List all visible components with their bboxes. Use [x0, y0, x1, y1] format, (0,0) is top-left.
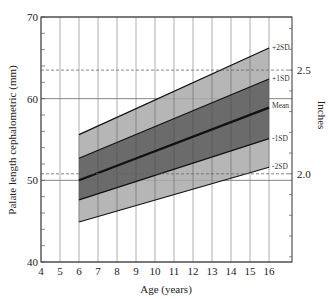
x-axis-title: Age (years): [140, 283, 192, 296]
band-label: -1SD: [272, 134, 288, 143]
x-tick-label: 13: [207, 265, 219, 277]
x-axis-ticks: 45678910111213141516: [38, 265, 275, 277]
y-axis-ticks: 40506070: [27, 11, 45, 268]
x-tick-label: 4: [38, 265, 44, 277]
growth-chart: 45678910111213141516 40506070 2.52.0 +2S…: [0, 0, 332, 299]
x-tick-label: 15: [245, 265, 257, 277]
x-tick-label: 7: [95, 265, 101, 277]
right-tick-label: 2.0: [297, 168, 311, 180]
x-tick-label: 8: [114, 265, 120, 277]
y-tick-label: 70: [27, 11, 39, 23]
band-labels: +2SD+1SDMean-1SD-2SD: [272, 43, 290, 171]
y-axis-title: Palate length cephalometric (mm): [6, 65, 19, 215]
band-label: +1SD: [272, 74, 290, 83]
x-tick-label: 11: [169, 265, 180, 277]
x-tick-label: 12: [188, 265, 199, 277]
x-tick-label: 16: [264, 265, 276, 277]
y-tick-label: 60: [27, 93, 39, 105]
x-tick-label: 5: [57, 265, 63, 277]
y-tick-label: 40: [27, 256, 39, 268]
band-label: +2SD: [272, 43, 290, 52]
right-tick-label: 2.5: [297, 64, 311, 76]
x-tick-label: 6: [76, 265, 82, 277]
x-tick-label: 10: [150, 265, 162, 277]
band-label: -2SD: [272, 162, 288, 171]
x-tick-label: 9: [133, 265, 139, 277]
right-axis-title: Inches: [316, 101, 328, 130]
x-tick-label: 14: [226, 265, 238, 277]
y-tick-label: 50: [27, 174, 39, 186]
band-label: Mean: [272, 101, 289, 110]
